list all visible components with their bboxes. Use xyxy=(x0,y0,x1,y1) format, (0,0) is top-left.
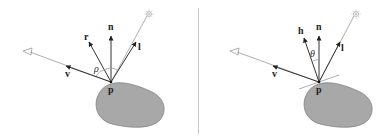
point-p-dot xyxy=(110,81,113,84)
label-n: n xyxy=(316,21,322,32)
vector-l xyxy=(111,42,136,82)
label-theta: θ xyxy=(310,48,315,59)
angle-arc xyxy=(313,60,319,61)
label-r: r xyxy=(84,31,89,42)
label-p: p xyxy=(108,84,114,95)
surface-blob xyxy=(304,83,372,128)
label-l: l xyxy=(138,41,141,52)
label-l: l xyxy=(341,42,344,53)
vector-v xyxy=(273,66,319,82)
label-n: n xyxy=(108,21,114,32)
point-p-dot xyxy=(318,81,321,84)
surface-blob xyxy=(96,83,164,128)
light-source-icon xyxy=(144,9,154,19)
left-panel: n r l v p ρ xyxy=(23,9,164,127)
label-p: p xyxy=(316,84,322,95)
label-h: h xyxy=(298,25,304,36)
light-ray-line xyxy=(111,16,147,82)
vector-r xyxy=(89,42,111,82)
label-v: v xyxy=(65,68,70,79)
eye-icon xyxy=(230,48,239,55)
diagram-canvas: n r l v p ρ n h l v p θ xyxy=(0,0,386,139)
right-panel: n h l v p θ xyxy=(230,9,372,127)
light-source-icon xyxy=(351,9,361,19)
label-v: v xyxy=(272,68,277,79)
eye-icon xyxy=(23,48,32,55)
label-rho: ρ xyxy=(93,63,99,74)
vector-v xyxy=(66,66,111,82)
